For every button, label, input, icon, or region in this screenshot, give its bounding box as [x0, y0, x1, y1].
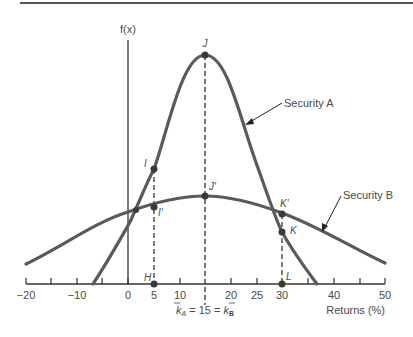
point-L: [279, 281, 286, 288]
tick-label: −20: [17, 289, 36, 301]
y-axis-label: f(x): [120, 23, 136, 35]
label-I: I: [144, 158, 147, 169]
mean-label: kA = 15 = kB: [176, 304, 234, 317]
label-I-prime: I′: [158, 207, 164, 218]
security-a-arrow: [250, 103, 282, 122]
point-H: [151, 281, 158, 288]
distribution-chart: f(x) −20 −10 0 5 10 20 25 30 40 50 Retur…: [0, 0, 413, 337]
tick-label: 50: [379, 289, 391, 301]
tick-label: 25: [251, 289, 263, 301]
point-J: [202, 52, 209, 59]
tick-label: −10: [68, 289, 87, 301]
label-H: H: [144, 272, 152, 283]
point-K: [279, 229, 286, 236]
security-b-label: Security B: [343, 189, 393, 201]
label-J-prime: J′: [208, 181, 217, 192]
arrowhead-icon: [245, 118, 254, 125]
point-K-prime: [279, 211, 286, 218]
security-b-arrow: [325, 196, 341, 227]
tick-label: 20: [225, 289, 237, 301]
point-I-prime: [151, 204, 158, 211]
tick-label: 0: [125, 289, 131, 301]
tick-label: 40: [328, 289, 340, 301]
tick-label: 5: [151, 289, 157, 301]
point-I: [151, 166, 158, 173]
label-J: J: [202, 38, 209, 49]
tick-label: 30: [276, 289, 288, 301]
security-a-label: Security A: [284, 97, 334, 109]
tick-label: 10: [174, 289, 186, 301]
label-K-prime: K′: [280, 198, 290, 209]
point-intersection: [133, 207, 139, 213]
point-J-prime: [202, 193, 209, 200]
x-axis-label: Returns (%): [326, 304, 385, 316]
label-L: L: [286, 271, 292, 282]
label-K: K: [290, 225, 298, 236]
curve-security-b: [26, 196, 385, 264]
